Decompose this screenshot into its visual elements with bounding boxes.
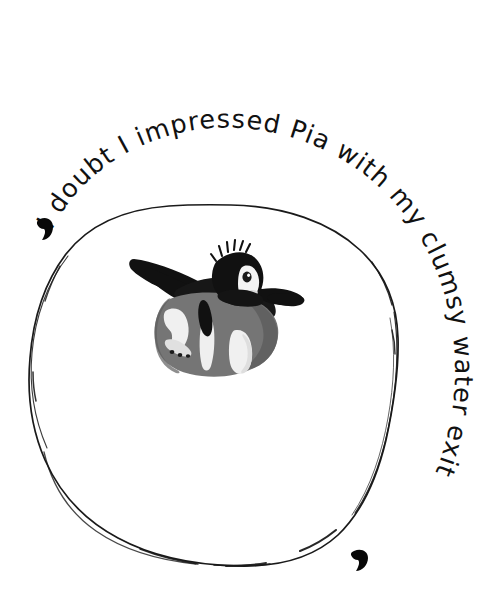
opening-quote-mark bbox=[37, 218, 53, 240]
penguin-caption-artwork: I doubt I impressed Pia with my clumsy w… bbox=[0, 0, 504, 605]
penguin-eye bbox=[242, 272, 251, 283]
circle-stroke-flick-left bbox=[33, 372, 36, 401]
circle-outline-double-left bbox=[31, 256, 68, 448]
circle-outline-double-lowerleft bbox=[44, 452, 196, 564]
circle-stroke-flick-top-right bbox=[372, 262, 392, 305]
closing-quote-mark bbox=[351, 550, 368, 571]
circle-outline-double-right bbox=[355, 312, 397, 513]
illustration-canvas: I doubt I impressed Pia with my clumsy w… bbox=[0, 0, 504, 605]
circle-stroke-flick-upper-left bbox=[45, 266, 60, 301]
penguin-eye-highlight bbox=[247, 274, 250, 277]
penguin-illustration bbox=[129, 240, 304, 377]
circle-outline-double-right-2 bbox=[352, 318, 394, 515]
